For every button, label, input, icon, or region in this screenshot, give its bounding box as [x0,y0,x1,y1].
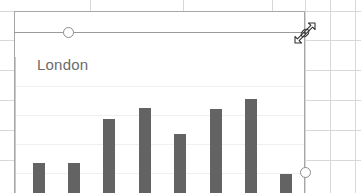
column-divider [305,0,306,193]
chart-bar [68,163,80,193]
bottom-right-handle[interactable] [300,167,311,178]
chart-bar [33,163,45,193]
chart-bar [174,134,186,193]
chart-border-right [304,11,305,193]
chart-bar-series [15,57,304,193]
chart-bar [245,99,257,193]
column-divider [355,0,356,193]
selection-outline [14,32,306,33]
chart-plot-area [15,57,304,193]
chart-object[interactable]: London [14,11,305,193]
spreadsheet-canvas: London [0,0,361,193]
chart-bar [210,109,222,193]
chart-bar [280,174,292,193]
chart-border-top [14,11,305,12]
top-middle-handle[interactable] [63,27,74,38]
column-divider [330,0,331,193]
chart-bar [139,108,151,193]
chart-bar [103,119,115,193]
